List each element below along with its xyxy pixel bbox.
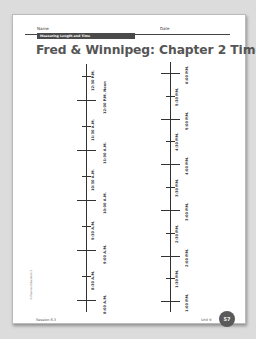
time-label: 3:30 P.M. <box>175 179 179 197</box>
time-label: 6:00 P.M. <box>185 66 189 84</box>
time-label: 12:30 P.M. <box>91 70 95 91</box>
time-label: 9:00 A.M. <box>103 245 107 264</box>
time-label: 3:00 P.M. <box>185 203 189 221</box>
tick-hour <box>161 256 180 257</box>
tick-hour <box>161 164 180 165</box>
tick-half <box>166 187 175 188</box>
session-label: Session 8.3 <box>36 318 56 322</box>
tick-half <box>82 226 91 227</box>
time-label: 1:30 P.M. <box>175 270 179 288</box>
tick-half <box>82 76 91 77</box>
tick-hour <box>161 210 180 211</box>
tick-half <box>166 278 175 279</box>
time-label: 4:00 P.M. <box>185 157 189 175</box>
time-label: 2:30 P.M. <box>175 225 179 243</box>
tick-half <box>82 276 91 277</box>
tick-hour <box>161 73 180 74</box>
time-label: 11:00 A.M. <box>103 142 107 164</box>
time-label: 12:00 P.M. Noon <box>103 81 107 114</box>
page-title: Fred & Winnipeg: Chapter 2 Timeline <box>36 43 256 57</box>
tick-half <box>166 96 175 97</box>
time-label: 4:30 P.M. <box>175 133 179 151</box>
time-label: 11:30 A.M. <box>91 119 95 141</box>
time-label: 5:00 P.M. <box>185 112 189 130</box>
tick-half <box>166 141 175 142</box>
unit-label: Unit 9 <box>201 318 211 322</box>
time-label: 8:30 A.M. <box>91 271 95 290</box>
time-label: 2:00 P.M. <box>185 249 189 267</box>
topic-band: Measuring Length and Time <box>37 33 135 39</box>
tick-half <box>82 126 91 127</box>
time-label: 10:00 A.M. <box>103 192 107 214</box>
time-label: 10:30 A.M. <box>91 169 95 191</box>
tick-hour <box>77 250 96 251</box>
tick-half <box>166 233 175 234</box>
page-number-badge: 57 <box>219 311 235 327</box>
date-label: Date <box>160 26 170 31</box>
time-label: 5:30 P.M. <box>175 88 179 106</box>
worksheet-page <box>12 14 246 324</box>
copyright-text: © Pearson Education 3 <box>30 270 33 300</box>
tick-hour <box>77 200 96 201</box>
left-timeline-axis <box>86 64 87 312</box>
tick-hour <box>77 100 96 101</box>
tick-hour <box>77 300 96 301</box>
tick-half <box>82 176 91 177</box>
time-label: 8:00 A.M. <box>103 295 107 314</box>
time-label: 1:00 P.M. <box>185 294 189 312</box>
tick-hour <box>161 301 180 302</box>
tick-hour <box>77 150 96 151</box>
tick-hour <box>161 119 180 120</box>
name-label: Name <box>37 26 49 31</box>
time-label: 9:30 A.M. <box>91 221 95 240</box>
